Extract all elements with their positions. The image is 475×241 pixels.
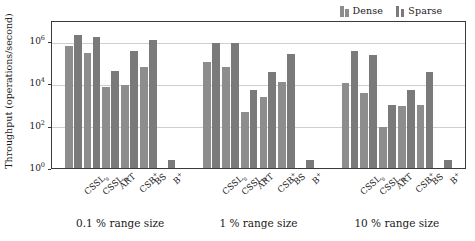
legend-swatch-sparse-a [396,6,400,17]
bar [398,106,406,168]
bar [306,160,314,168]
y-tick-label: 106 [0,37,45,46]
gridline [52,43,465,44]
bar [93,37,101,168]
bar [260,97,268,168]
bar [417,105,425,168]
bar [121,85,129,168]
bar [168,160,176,168]
bar [369,55,377,168]
y-tick-label: 102 [0,122,45,131]
x-tick-label: B+ [449,172,463,186]
x-tick-label: B+ [310,172,324,186]
bar [407,90,415,168]
legend-label-dense: Dense [353,6,383,16]
legend-swatch-dense-b [345,9,349,17]
bar [222,67,230,168]
bar [74,35,82,168]
legend-entry-dense: Dense [340,6,383,17]
bar [342,83,350,168]
bar [278,82,286,168]
x-tick-label: B+ [172,172,186,186]
group-label: 10 % range size [328,218,466,229]
bar [351,51,359,168]
y-tick-mark [48,169,51,170]
group-label: 1 % range size [189,218,327,229]
chart-legend: Dense Sparse [340,3,442,19]
legend-swatch-dense-a [340,6,344,17]
legend-swatch-sparse [396,6,405,17]
bar [360,93,368,168]
bar [241,112,249,168]
bar [379,127,387,168]
y-tick-label: 100 [0,164,45,173]
bar [444,160,452,168]
bar [84,53,92,168]
bar [388,105,396,168]
bar [203,62,211,168]
bar [268,72,276,168]
group-label: 0.1 % range size [51,218,189,229]
legend-label-sparse: Sparse [408,6,442,16]
legend-swatch-dense [340,6,349,17]
bar [111,71,119,168]
bar [149,40,157,168]
legend-swatch-sparse-b [401,9,405,17]
plot-area [51,21,466,169]
bar [250,90,258,168]
bar [231,43,239,168]
bar [426,72,434,168]
throughput-bar-chart: Dense Sparse Throughput (operations/seco… [0,0,475,241]
legend-entry-sparse: Sparse [396,6,442,17]
y-tick-label: 104 [0,79,45,88]
bar [287,54,295,168]
bar [65,46,73,168]
bar [130,51,138,168]
bar [212,43,220,168]
y-axis-title: Throughput (operations/second) [2,6,16,176]
bar [102,87,110,168]
bar [140,67,148,168]
